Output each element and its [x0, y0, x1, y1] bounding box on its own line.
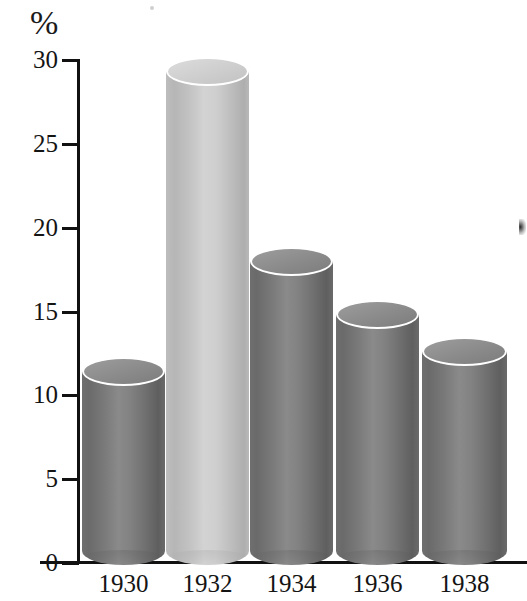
y-tick-20	[62, 227, 79, 230]
bar-1936	[336, 300, 419, 565]
y-tick-label-10: 10	[8, 382, 58, 407]
y-tick-label-25: 25	[8, 131, 58, 156]
bar-top-ellipse-1934	[250, 247, 333, 276]
x-label-1930: 1930	[82, 570, 165, 597]
x-label-1932: 1932	[166, 570, 249, 597]
bar-body-1934	[250, 261, 333, 565]
bar-body-1932	[166, 71, 249, 565]
y-tick-15	[62, 311, 79, 314]
x-label-1938: 1938	[422, 570, 507, 597]
y-tick-25	[62, 143, 79, 146]
y-tick-label-30: 30	[8, 47, 58, 72]
x-label-1934: 1934	[250, 570, 333, 597]
scan-artifact-right	[519, 219, 526, 235]
bar-base-shadow-1936	[336, 550, 419, 566]
x-label-1936: 1936	[336, 570, 419, 597]
bar-body-1936	[336, 314, 419, 565]
bar-body-1938	[422, 351, 507, 565]
bar-1938	[422, 337, 507, 565]
bar-base-shadow-1938	[422, 550, 507, 566]
y-tick-label-15: 15	[8, 299, 58, 324]
y-tick-10	[62, 394, 79, 397]
bar-1934	[250, 247, 333, 565]
bar-base-shadow-1932	[166, 550, 249, 566]
bar-1932	[166, 57, 249, 565]
y-tick-30	[62, 59, 79, 62]
y-tick-5	[62, 478, 79, 481]
scan-artifact-top	[150, 6, 154, 10]
bar-1930	[82, 357, 165, 565]
y-tick-label-5: 5	[8, 466, 58, 491]
bar-base-shadow-1930	[82, 550, 165, 566]
y-axis-unit-label: %	[30, 6, 57, 40]
y-tick-label-0: 0	[8, 550, 58, 575]
y-tick-0	[62, 562, 79, 565]
bar-body-1930	[82, 371, 165, 565]
bar-chart: % 302520151050 19301932193419361938	[0, 0, 527, 601]
bar-base-shadow-1934	[250, 550, 333, 566]
y-tick-label-20: 20	[8, 215, 58, 240]
